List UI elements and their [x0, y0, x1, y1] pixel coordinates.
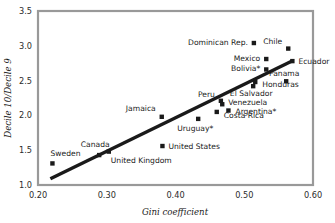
- data-point-marker: [264, 57, 268, 61]
- data-point-label: Peru: [198, 90, 215, 99]
- x-axis-ticks: 0.200.300.400.500.60: [29, 190, 322, 200]
- y-tick-label: 3.5: [19, 6, 32, 16]
- data-point-marker: [160, 144, 164, 148]
- y-tick-label: 1.0: [19, 180, 32, 190]
- data-point-label: United States: [168, 142, 219, 151]
- data-point-marker: [97, 153, 101, 157]
- data-point-label: Jamaica: [125, 104, 156, 113]
- data-point-label: Ecuador: [298, 57, 330, 66]
- data-point-marker: [290, 59, 294, 63]
- data-point-marker: [160, 115, 164, 119]
- data-point-label: Argentina*: [235, 107, 276, 116]
- data-point-marker: [252, 41, 256, 45]
- data-point-label: Venezuela: [228, 98, 267, 107]
- data-point-marker: [107, 149, 111, 153]
- data-point-label: Sweden: [50, 149, 80, 158]
- x-axis-title: Gini coefficient: [142, 207, 209, 217]
- y-tick-label: 3.0: [19, 41, 32, 51]
- data-point-marker: [286, 46, 290, 50]
- data-point-label: Panama: [269, 69, 299, 78]
- x-tick-label: 0.60: [304, 190, 322, 200]
- data-point-marker: [50, 161, 54, 165]
- data-point-marker: [196, 117, 200, 121]
- data-point-label: Chile: [263, 37, 282, 46]
- scatter-plot: SwedenCanadaUnited KingdomUnited StatesJ…: [0, 0, 335, 223]
- data-point-label: Mexico: [234, 54, 261, 63]
- data-point-label: Bolivia*: [231, 64, 260, 73]
- data-point-label: Honduras: [262, 80, 299, 89]
- data-point: United States: [160, 142, 220, 151]
- data-point-marker: [226, 108, 230, 112]
- data-point-marker: [215, 110, 219, 114]
- data-point-marker: [284, 79, 288, 83]
- y-tick-label: 2.5: [19, 76, 32, 86]
- data-point-label: Canada: [81, 140, 110, 149]
- data-point-label: Dominican Rep.: [188, 38, 248, 47]
- data-point-marker: [219, 99, 223, 103]
- x-tick-label: 0.50: [235, 190, 253, 200]
- x-tick-label: 0.40: [166, 190, 184, 200]
- data-point-marker: [251, 84, 255, 88]
- data-point-label: United Kingdom: [111, 156, 172, 165]
- x-tick-label: 0.30: [98, 190, 116, 200]
- data-point-label: El Salvador: [230, 89, 274, 98]
- data-point-marker: [264, 67, 268, 71]
- y-tick-label: 2.0: [19, 110, 32, 120]
- scatter-chart-container: SwedenCanadaUnited KingdomUnited StatesJ…: [0, 0, 335, 223]
- data-point: Dominican Rep.: [188, 38, 256, 47]
- y-axis-title: Decile 10/Decile 9: [3, 58, 13, 139]
- data-point-marker: [253, 80, 257, 84]
- y-tick-label: 1.5: [19, 145, 32, 155]
- x-tick-label: 0.20: [29, 190, 47, 200]
- data-point-label: Uruguay*: [177, 124, 213, 133]
- y-axis-ticks: 1.01.52.02.53.03.5: [19, 6, 32, 190]
